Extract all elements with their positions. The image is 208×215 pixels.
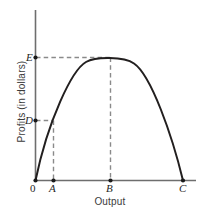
tick-label-a: A: [49, 183, 56, 194]
marker-e: [33, 55, 37, 59]
tick-label-c: C: [179, 183, 186, 194]
x-axis-title: Output: [60, 196, 160, 207]
tick-label-d: D: [25, 115, 33, 126]
y-axis-title: Profits (in dollars): [16, 37, 27, 167]
tick-label-b: B: [106, 183, 113, 194]
marker-d: [33, 118, 37, 122]
origin-label: 0: [30, 183, 36, 194]
profit-curve: [36, 58, 184, 180]
profit-output-chart: Profits (in dollars) Output 0 A B C D E: [0, 0, 208, 215]
tick-label-e: E: [26, 52, 33, 63]
